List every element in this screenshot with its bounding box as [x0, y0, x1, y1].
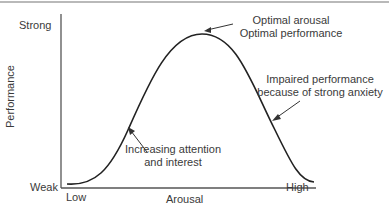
x-tick-high: High	[286, 181, 309, 194]
annotation-peak-line2: Optimal performance	[236, 27, 346, 40]
annotation-fall-line2: because of strong anxiety	[250, 86, 389, 99]
annotation-fall-line1: Impaired performance	[250, 73, 389, 86]
annotation-peak-line1: Optimal arousal	[236, 14, 346, 27]
peak-arrow	[204, 24, 233, 33]
fall-arrow	[272, 101, 300, 121]
annotation-fall: Impaired performance because of strong a…	[250, 73, 389, 99]
annotation-rise-line2: and interest	[118, 156, 228, 169]
annotation-peak: Optimal arousal Optimal performance	[236, 14, 346, 40]
y-tick-strong: Strong	[19, 19, 51, 32]
y-axis-label: Performance	[4, 65, 16, 128]
y-tick-weak: Weak	[30, 181, 58, 194]
x-axis-label: Arousal	[166, 193, 203, 206]
annotation-rise: Increasing attention and interest	[118, 143, 228, 169]
x-tick-low: Low	[66, 191, 86, 204]
annotation-rise-line1: Increasing attention	[118, 143, 228, 156]
